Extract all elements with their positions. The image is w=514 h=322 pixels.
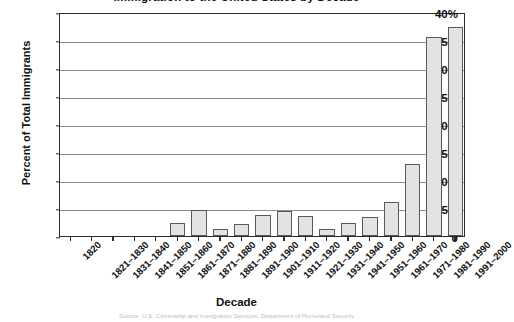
bar-slot [274,14,295,236]
bar-slot [423,14,444,236]
bar [448,27,463,236]
y-axis-title: Percent of Total Immigrants [20,28,32,198]
bar [426,37,441,236]
bar-slot [445,14,466,236]
plot-area: 05%10%15%20%25%30%35%40% [59,13,465,237]
bar-slot [295,14,316,236]
bar [384,202,399,236]
bar [255,215,270,236]
bar [362,217,377,236]
bar-slot [124,14,145,236]
bar [277,211,292,236]
bar [341,223,356,236]
bar [213,229,228,236]
x-axis-tick-labels: 18201821–18301831–18401841–18501851–1860… [59,239,465,297]
bar-series [60,14,464,236]
bar-slot [252,14,273,236]
chart-title: Immigration to the United States by Deca… [0,0,473,3]
bar [298,216,313,236]
source-note: Source: U.S. Citizenship and Immigration… [0,312,473,319]
bar [319,229,334,236]
bar-slot [188,14,209,236]
bar-slot [81,14,102,236]
bar-slot [359,14,380,236]
bar-slot [338,14,359,236]
bar [191,210,206,236]
bar [170,223,185,236]
x-axis-tick-label: 1820 [80,239,103,262]
bar-slot [231,14,252,236]
bar [234,224,249,236]
bar-slot [145,14,166,236]
bar-slot [167,14,188,236]
bar [405,164,420,236]
bar-slot [60,14,81,236]
bar-slot [210,14,231,236]
bar-slot [103,14,124,236]
bar-slot [381,14,402,236]
bar-slot [316,14,337,236]
bar-slot [402,14,423,236]
x-axis-title: Decade [0,296,473,308]
